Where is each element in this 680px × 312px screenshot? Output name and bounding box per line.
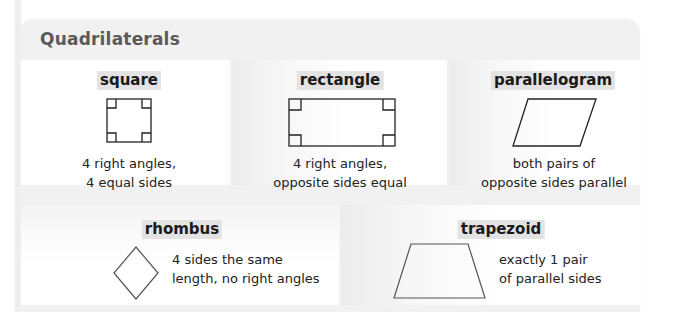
square-icon [106,98,152,144]
square-term: square [97,71,161,90]
section-title: Quadrilaterals [40,29,180,49]
trapezoid-description-line-1: exactly 1 pair [499,250,588,269]
trapezoid-description-line-2: of parallel sides [499,269,602,288]
rhombus-description-line-2: length, no right angles [172,269,320,288]
rhombus-term: rhombus [142,220,222,239]
parallelogram-icon [512,98,598,148]
rectangle-icon [288,98,396,148]
rhombus-icon [112,246,160,300]
rhombus-description-line-1: 4 sides the same [172,250,283,269]
parallelogram-description-line-1: both pairs of [513,154,595,173]
trapezoid-term: trapezoid [458,220,545,239]
parallelogram-description-line-2: opposite sides parallel [481,173,627,192]
square-description-line-1: 4 right angles, [82,154,176,173]
trapezoid-icon [393,243,487,299]
parallelogram-term: parallelogram [491,71,615,90]
square-description-line-2: 4 equal sides [86,173,172,192]
rectangle-term: rectangle [297,71,384,90]
rectangle-description-line-1: 4 right angles, [293,154,387,173]
rectangle-description-line-2: opposite sides equal [273,173,407,192]
